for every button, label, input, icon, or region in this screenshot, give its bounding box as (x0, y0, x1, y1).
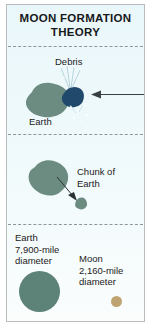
impact-arrow-icon (91, 89, 145, 100)
title-panel: MOON FORMATION THEORY (7, 5, 144, 46)
panel-scale: Earth 7,900-mile diameter Moon 2,160-mil… (7, 224, 144, 321)
panel-impact: Debris (7, 46, 144, 134)
moon-formation-figure: MOON FORMATION THEORY Debris (0, 0, 151, 330)
debris-specks-icon (67, 104, 93, 124)
earth-scale-label: Earth 7,900-mile diameter (15, 232, 59, 267)
debris-streaks-icon (55, 64, 85, 90)
panel-chunk: Chunk of Earth (7, 134, 144, 224)
chunk-blob-icon (74, 197, 88, 210)
moon-circle-icon (111, 296, 122, 307)
earth-circle-icon (19, 271, 60, 312)
figure-frame: MOON FORMATION THEORY Debris (6, 4, 145, 322)
moon-scale-label: Moon 2,160-mile diameter (79, 253, 123, 288)
earth-label-impact: Earth (29, 116, 52, 128)
chunk-of-earth-label: Chunk of Earth (77, 166, 115, 189)
figure-title: MOON FORMATION THEORY (7, 12, 144, 39)
